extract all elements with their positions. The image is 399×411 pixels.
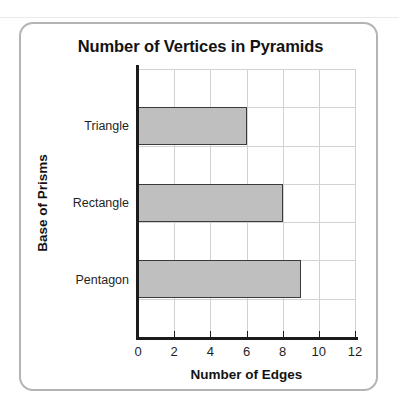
chart-screenshot: Number of Vertices in Pyramids TriangleR… xyxy=(0,0,399,411)
vertical-gridline xyxy=(355,69,356,337)
chart-card: Number of Vertices in Pyramids TriangleR… xyxy=(19,22,378,391)
bar xyxy=(138,107,247,145)
category-label: Triangle xyxy=(84,120,129,133)
x-axis-title: Number of Edges xyxy=(138,367,355,382)
x-axis-tick xyxy=(210,331,211,337)
x-tick-label: 12 xyxy=(348,345,362,358)
x-tick-label: 6 xyxy=(243,345,250,358)
x-axis-tick xyxy=(319,331,320,337)
x-axis-tick xyxy=(283,331,284,337)
horizontal-gridline xyxy=(138,146,355,147)
chart-title: Number of Vertices in Pyramids xyxy=(21,37,380,56)
x-axis-tick xyxy=(355,331,356,337)
x-tick-label: 8 xyxy=(279,345,286,358)
category-label: Rectangle xyxy=(73,197,129,210)
horizontal-gridline xyxy=(138,299,355,300)
x-tick-label: 4 xyxy=(207,345,214,358)
y-axis-title: Base of Prisms xyxy=(34,69,52,337)
x-tick-label: 10 xyxy=(312,345,326,358)
horizontal-gridline xyxy=(138,222,355,223)
bar xyxy=(138,184,283,222)
x-tick-label: 2 xyxy=(171,345,178,358)
scan-artifact xyxy=(0,17,399,18)
x-axis-tick xyxy=(247,331,248,337)
x-axis-tick xyxy=(138,331,139,337)
bar xyxy=(138,260,301,298)
plot-area: TriangleRectanglePentagon 024681012 Numb… xyxy=(138,69,355,337)
x-axis-tick xyxy=(174,331,175,337)
x-axis-line xyxy=(136,337,358,340)
x-tick-label: 0 xyxy=(134,345,141,358)
horizontal-gridline xyxy=(138,69,355,70)
category-label: Pentagon xyxy=(75,274,129,287)
y-axis-line xyxy=(136,65,139,339)
vertical-gridline xyxy=(319,69,320,337)
